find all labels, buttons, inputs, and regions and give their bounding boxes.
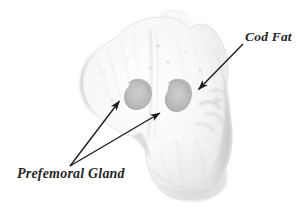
annotated-figure: Cod Fat Prefemoral Gland	[0, 0, 304, 211]
prefemoral-gland-label: Prefemoral Gland	[17, 167, 125, 181]
prefemoral-gland-leader-arrow-icon-2	[70, 113, 160, 166]
cod-fat-leader-arrow-icon	[199, 44, 244, 90]
cod-fat-label: Cod Fat	[245, 30, 292, 44]
prefemoral-gland-leader-arrow-icon-1	[70, 101, 120, 166]
